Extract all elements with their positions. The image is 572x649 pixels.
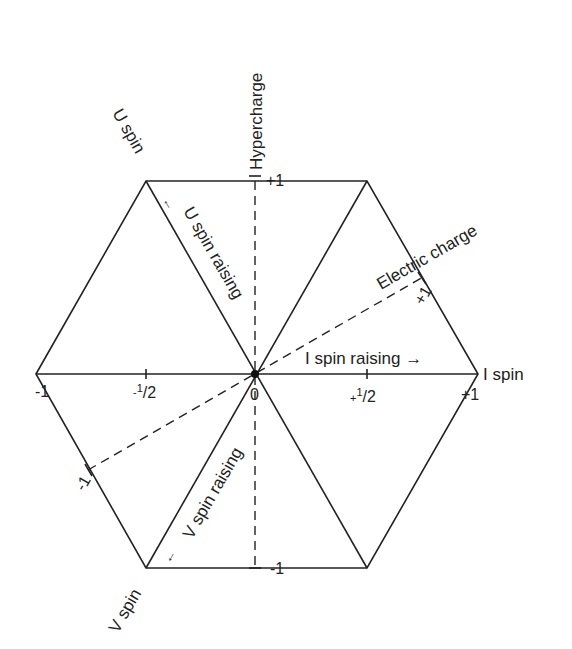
x-tick-minus1: -1 bbox=[35, 383, 49, 400]
electric-charge-label: Electric charge bbox=[374, 221, 481, 294]
u-spin-label: U spin bbox=[109, 106, 150, 157]
hypercharge-label: Hypercharge bbox=[247, 73, 266, 170]
y-tick-plus1: +1 bbox=[266, 172, 284, 189]
y-tick-minus1: -1 bbox=[270, 560, 284, 577]
v-spin-label: V spin bbox=[105, 586, 145, 636]
u-spin-raising-label: U spin raising bbox=[180, 204, 248, 303]
q-tick-plus1: +1 bbox=[411, 283, 435, 307]
i-spin-raising-label: I spin raising → bbox=[305, 349, 422, 368]
x-tick-plus-half: +1/2 bbox=[350, 386, 376, 405]
hexagon-weight-diagram: Hypercharge U spin V spin I spin Electri… bbox=[0, 0, 572, 649]
v-spin-raising-arrow: ← bbox=[160, 547, 179, 566]
x-tick-zero: 0 bbox=[250, 386, 259, 403]
tick-q-plus1 bbox=[418, 272, 426, 284]
q-tick-minus1: -1 bbox=[72, 473, 94, 494]
i-spin-label: I spin bbox=[483, 365, 524, 384]
origin-dot bbox=[251, 370, 259, 378]
x-tick-plus1: +1 bbox=[461, 386, 479, 403]
x-tick-minus-half: -1/2 bbox=[133, 382, 156, 401]
